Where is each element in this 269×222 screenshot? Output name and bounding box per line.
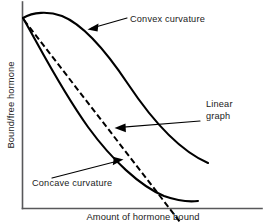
x-axis-title: Amount of hormone bound [86,211,199,222]
linear-graph-label-line1: Linear [206,99,233,109]
convex-arrowhead [88,23,99,31]
convex-curve [23,13,208,163]
curves-group [23,13,208,222]
figure-container: Convex curvature Linear graph Concave cu… [0,0,269,222]
concave-leader-line [52,161,118,178]
linear-graph-label-line2: graph [206,111,230,121]
linear-arrowhead [115,123,126,132]
convex-curvature-label: Convex curvature [130,14,205,24]
y-axis-title: Bound/free hormone [5,61,16,148]
annotation-leaders-group [52,18,200,178]
concave-curve [23,18,198,201]
scatchard-plot-svg: Convex curvature Linear graph Concave cu… [0,0,269,222]
concave-curvature-label: Concave curvature [32,178,112,188]
